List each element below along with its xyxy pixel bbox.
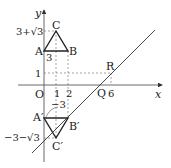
side-ab-label: 3 xyxy=(46,52,52,63)
point-a-prime: A′ xyxy=(32,111,44,124)
point-c: C xyxy=(52,19,60,32)
line-qr xyxy=(32,30,155,153)
origin-label: O xyxy=(35,88,44,101)
arc-label: −3 xyxy=(51,99,66,110)
x-tick-1: 1 xyxy=(54,88,60,99)
point-q: Q xyxy=(97,87,106,100)
point-r: R xyxy=(106,60,115,73)
coordinate-diagram: y x O 1 2 6 1 3+√3 −3−√3 A B C 3 A′ B′ C… xyxy=(0,0,171,168)
x-axis-label: x xyxy=(155,88,162,101)
y-tick-3-plus-sqrt3: 3+√3 xyxy=(16,26,43,37)
x-tick-2: 2 xyxy=(66,88,72,99)
x-tick-6: 6 xyxy=(108,88,114,99)
y-tick-neg-3-minus-sqrt3: −3−√3 xyxy=(4,132,40,143)
point-b: B xyxy=(69,45,77,58)
point-b-prime: B′ xyxy=(69,120,80,133)
point-c-prime: C′ xyxy=(52,140,63,153)
point-a: A xyxy=(34,45,44,58)
y-tick-1: 1 xyxy=(35,68,41,79)
y-axis-label: y xyxy=(34,7,42,20)
